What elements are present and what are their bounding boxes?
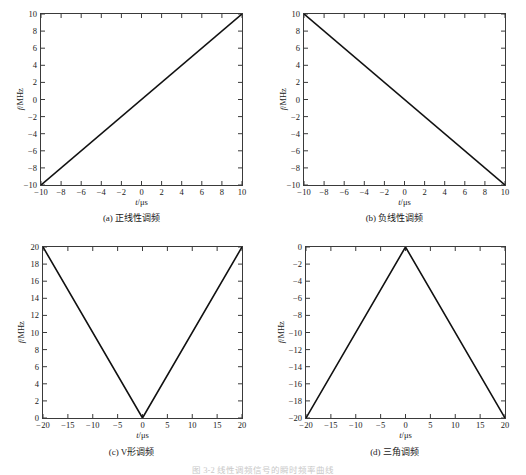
plot-svg-b [304,14,505,185]
x-tick-label: 15 [213,421,222,430]
x-tick-label: −8 [57,188,66,197]
data-series-v-chirp [43,247,242,418]
plot-svg-a [41,14,242,185]
x-tick-label: 10 [501,188,510,197]
y-tick-label: −2 [293,260,302,269]
y-tick-label: 0 [33,95,37,104]
y-tick-label: 10 [31,328,40,337]
x-tick-label: 10 [188,421,197,430]
y-tick-label: −10 [287,181,300,190]
plot-area-b: −10−8−6−4−202468101086420−2−4−6−8−10 t/μ… [303,13,506,186]
y-tick-label: −6 [28,147,37,156]
x-tick-label: 6 [200,188,204,197]
subplot-a: −10−8−6−4−202468101086420−2−4−6−8−10 t/μ… [0,0,263,236]
y-tick-label: 6 [296,44,300,53]
subplot-b: −10−8−6−4−202468101086420−2−4−6−8−10 t/μ… [263,0,526,236]
x-tick-label: 4 [443,188,447,197]
subplot-caption-d: (d) 三角调频 [263,448,526,457]
figure-caption: 图 3-2 线性调频信号的瞬时频率曲线 [0,466,526,475]
y-tick-label: 14 [31,294,40,303]
y-tick-label: 10 [292,10,301,19]
plot-area-d: −20−15−10−5051015200−2−4−6−8−10−12−14−16… [305,246,506,419]
x-tick-label: −8 [320,188,329,197]
x-axis-label-c: t/μs [136,431,149,440]
y-tick-label: −18 [289,397,302,406]
y-tick-label: 20 [31,243,40,252]
y-tick-label: −6 [291,147,300,156]
y-axis-label-b: f/MHz [279,88,288,110]
x-tick-label: 10 [451,421,460,430]
x-tick-label: 20 [238,421,247,430]
y-tick-label: 8 [35,345,39,354]
y-tick-label: 6 [33,44,37,53]
data-series-down-chirp [304,14,505,185]
y-tick-label: 6 [35,362,39,371]
y-tick-label: −2 [28,112,37,121]
y-tick-label: −4 [293,277,302,286]
y-tick-label: 12 [31,311,40,320]
x-tick-label: 0 [402,188,406,197]
x-tick-label: 10 [238,188,247,197]
y-tick-label: 0 [35,414,39,423]
y-tick-label: 8 [296,27,300,36]
y-tick-label: −2 [291,112,300,121]
y-tick-label: −20 [289,414,302,423]
x-tick-label: 20 [501,421,510,430]
x-tick-label: 0 [140,421,144,430]
y-tick-label: −4 [291,129,300,138]
x-tick-label: 5 [165,421,169,430]
y-tick-label: 18 [31,260,40,269]
plot-area-a: −10−8−6−4−202468101086420−2−4−6−8−10 t/μ… [40,13,243,186]
x-tick-label: 0 [403,421,407,430]
plot-area-c: −20−15−10−50510152020181614121086420 t/μ… [42,246,243,419]
data-series-triangle-chirp [306,247,505,418]
subplot-d: −20−15−10−5051015200−2−4−6−8−10−12−14−16… [263,236,526,473]
y-tick-label: −10 [24,181,37,190]
y-axis-label-d: f/MHz [277,321,286,343]
x-tick-label: −2 [380,188,389,197]
x-tick-label: 2 [422,188,426,197]
x-tick-label: 6 [463,188,467,197]
x-tick-label: 8 [220,188,224,197]
y-tick-label: −4 [28,129,37,138]
x-tick-label: −10 [86,421,99,430]
y-tick-label: 4 [33,61,37,70]
x-tick-label: 4 [180,188,184,197]
y-tick-label: −8 [291,164,300,173]
x-tick-label: −4 [97,188,106,197]
y-tick-label: 4 [35,380,39,389]
y-axis-label-c: f/MHz [17,321,26,343]
x-tick-label: −5 [376,421,385,430]
y-tick-label: −12 [289,345,302,354]
y-tick-label: 8 [33,27,37,36]
subplot-c: −20−15−10−50510152020181614121086420 t/μ… [0,236,263,473]
x-tick-label: 5 [428,421,432,430]
plot-svg-d [306,247,505,418]
y-tick-label: −14 [289,362,302,371]
subplot-caption-c: (c) V形调频 [0,448,263,457]
x-axis-label-b: t/μs [398,198,411,207]
x-tick-label: −15 [324,421,337,430]
x-tick-label: 15 [476,421,485,430]
y-axis-label-a: f/MHz [16,88,25,110]
y-tick-label: −16 [289,380,302,389]
x-axis-label-d: t/μs [399,431,412,440]
y-tick-label: 10 [29,10,38,19]
y-tick-label: −6 [293,294,302,303]
y-tick-label: 0 [296,95,300,104]
x-tick-label: −4 [360,188,369,197]
y-tick-label: −8 [28,164,37,173]
subplot-caption-a: (a) 正线性调频 [0,214,263,223]
x-tick-label: −5 [113,421,122,430]
x-tick-label: 0 [139,188,143,197]
x-axis-label-a: t/μs [135,198,148,207]
subplot-caption-b: (b) 负线性调频 [263,214,526,223]
y-tick-label: 16 [31,277,40,286]
x-tick-label: 2 [159,188,163,197]
y-tick-label: 2 [35,397,39,406]
x-tick-label: −15 [61,421,74,430]
x-tick-label: −6 [340,188,349,197]
y-tick-label: 2 [33,78,37,87]
plot-svg-c [43,247,242,418]
